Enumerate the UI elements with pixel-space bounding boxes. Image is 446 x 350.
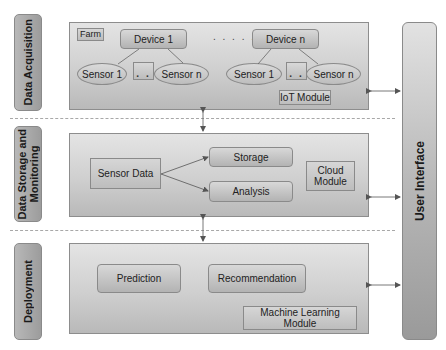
device-n-box: Device n [252,29,319,49]
ellipsis-text: . . . . . [213,31,256,42]
iot-module-label: IoT Module [279,90,331,105]
device-1-label: Device 1 [134,34,173,45]
sensor-label: Sensor 1 [82,69,122,80]
cloud-module-text: Cloud Module [314,165,347,187]
analysis-label: Analysis [232,186,269,197]
recommendation-box: Recommendation [208,264,306,293]
layer-label-data-acquisition-text: Data Acquisition [22,19,34,105]
prediction-label: Prediction [117,273,161,284]
ellipsis-text: . . [289,69,303,79]
sensor-label: Sensor 1 [234,69,274,80]
device-n-sensor-ellipsis: . . [286,62,307,80]
layer-label-deployment: Deployment [14,243,42,340]
ellipsis-text: . . [136,69,150,79]
device-1-sensor-ellipsis: . . [133,62,154,80]
farm-label: Farm [77,28,104,41]
device-n-sensor-1: Sensor 1 [226,63,282,85]
cloud-module-label: Cloud Module [306,161,355,191]
layer-label-data-storage-text: Data Storage and Monitoring [16,129,40,219]
device-1-box: Device 1 [120,29,187,49]
user-interface-bar: User Interface [402,22,437,340]
device-1-sensor-1: Sensor 1 [77,63,127,85]
layer-label-data-storage: Data Storage and Monitoring [14,126,42,222]
sensor-data-label: Sensor Data [98,168,154,179]
storage-box: Storage [209,147,293,167]
device-n-sensor-n: Sensor n [306,63,361,85]
layer-separator [10,118,395,119]
ml-module-text: Machine Learning Module [260,307,340,329]
layer-label-data-acquisition: Data Acquisition [14,14,42,111]
devices-ellipsis: . . . . . [213,31,256,42]
analysis-box: Analysis [209,181,293,202]
prediction-box: Prediction [97,264,181,293]
sensor-data-box: Sensor Data [90,158,161,189]
sensor-label: Sensor n [161,69,201,80]
layer-label-deployment-text: Deployment [22,260,34,323]
recommendation-label: Recommendation [218,273,296,284]
storage-label: Storage [233,152,268,163]
farm-label-text: Farm [80,29,101,40]
iot-module-text: IoT Module [280,92,330,103]
user-interface-label: User Interface [413,141,427,221]
device-1-sensor-n: Sensor n [154,63,209,85]
device-n-label: Device n [266,34,305,45]
sensor-label: Sensor n [313,69,353,80]
ml-module-label: Machine Learning Module [243,306,357,330]
layer-separator [10,230,395,231]
